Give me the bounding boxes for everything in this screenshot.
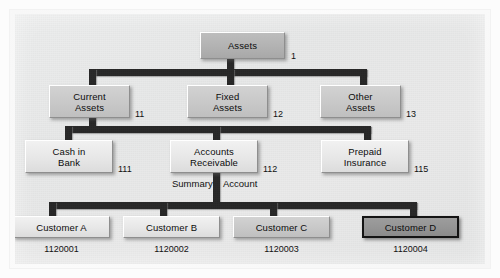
code-accounts-receivable: 112	[263, 164, 277, 174]
code-customer-c: 1120003	[233, 244, 330, 254]
node-cash-in-bank[interactable]: Cash in Bank	[25, 140, 113, 173]
node-customer-c-label: Customer C	[256, 222, 308, 233]
node-accounts-receivable[interactable]: Accounts Receivable	[170, 140, 258, 173]
connector-drop-prepaid-insurance	[364, 126, 371, 140]
diagram-panel: Assets 1 Current Assets 11 Fixed Assets …	[15, 14, 485, 264]
node-accounts-receivable-label-line2: Receivable	[190, 157, 238, 168]
node-cash-in-bank-label-line1: Cash in	[53, 146, 86, 157]
node-assets-label: Assets	[228, 40, 257, 51]
node-prepaid-insurance[interactable]: Prepaid Insurance	[321, 140, 409, 173]
node-other-assets-label-line2: Assets	[346, 102, 375, 113]
node-prepaid-insurance-label-line2: Insurance	[344, 157, 387, 168]
code-assets: 1	[291, 51, 296, 61]
node-customer-b-label: Customer B	[146, 222, 197, 233]
connector-drop-cash-in-bank	[65, 126, 72, 140]
code-prepaid-insurance: 115	[414, 164, 428, 174]
code-cash-in-bank: 111	[118, 164, 132, 174]
code-customer-b: 1120002	[123, 244, 220, 254]
connector-drop-customer-b	[160, 202, 167, 216]
connector-drop-current-assets	[89, 69, 96, 85]
connector-drop-customer-a	[49, 202, 56, 216]
code-fixed-assets: 12	[273, 109, 283, 119]
node-cash-in-bank-label-line2: Bank	[58, 157, 80, 168]
connector-drop-accounts-receivable	[213, 126, 220, 140]
caption-account: Account	[223, 178, 257, 189]
node-fixed-assets-label-line2: Assets	[213, 102, 242, 113]
node-other-assets-label-line1: Other	[348, 91, 372, 102]
node-customer-d-label: Customer D	[385, 222, 437, 233]
node-customer-c[interactable]: Customer C	[233, 216, 330, 238]
code-customer-a: 1120001	[15, 244, 110, 254]
node-accounts-receivable-label-line1: Accounts	[194, 146, 234, 157]
connector-drop-customer-c	[270, 202, 277, 216]
node-fixed-assets-label-line1: Fixed	[216, 91, 240, 102]
connector-accounts-receivable-stem	[213, 172, 220, 204]
connector-level4-bus	[49, 202, 417, 209]
node-assets[interactable]: Assets	[200, 32, 285, 59]
connector-drop-other-assets	[360, 69, 367, 85]
node-customer-a-label: Customer A	[36, 222, 87, 233]
node-prepaid-insurance-label-line1: Prepaid	[348, 146, 381, 157]
photo-frame: Assets 1 Current Assets 11 Fixed Assets …	[0, 0, 500, 278]
code-other-assets: 13	[406, 109, 416, 119]
node-current-assets[interactable]: Current Assets	[49, 85, 130, 118]
caption-summary: Summary	[172, 178, 213, 189]
connector-drop-fixed-assets	[227, 69, 234, 85]
node-other-assets[interactable]: Other Assets	[320, 85, 401, 118]
node-customer-d[interactable]: Customer D	[362, 216, 459, 238]
node-customer-a[interactable]: Customer A	[15, 216, 110, 238]
code-current-assets: 11	[135, 109, 144, 119]
node-customer-b[interactable]: Customer B	[123, 216, 220, 238]
connector-drop-customer-d	[410, 202, 417, 216]
code-customer-d: 1120004	[362, 244, 459, 254]
node-fixed-assets[interactable]: Fixed Assets	[187, 85, 268, 118]
node-current-assets-label-line2: Assets	[75, 102, 104, 113]
node-current-assets-label-line1: Current	[73, 91, 105, 102]
